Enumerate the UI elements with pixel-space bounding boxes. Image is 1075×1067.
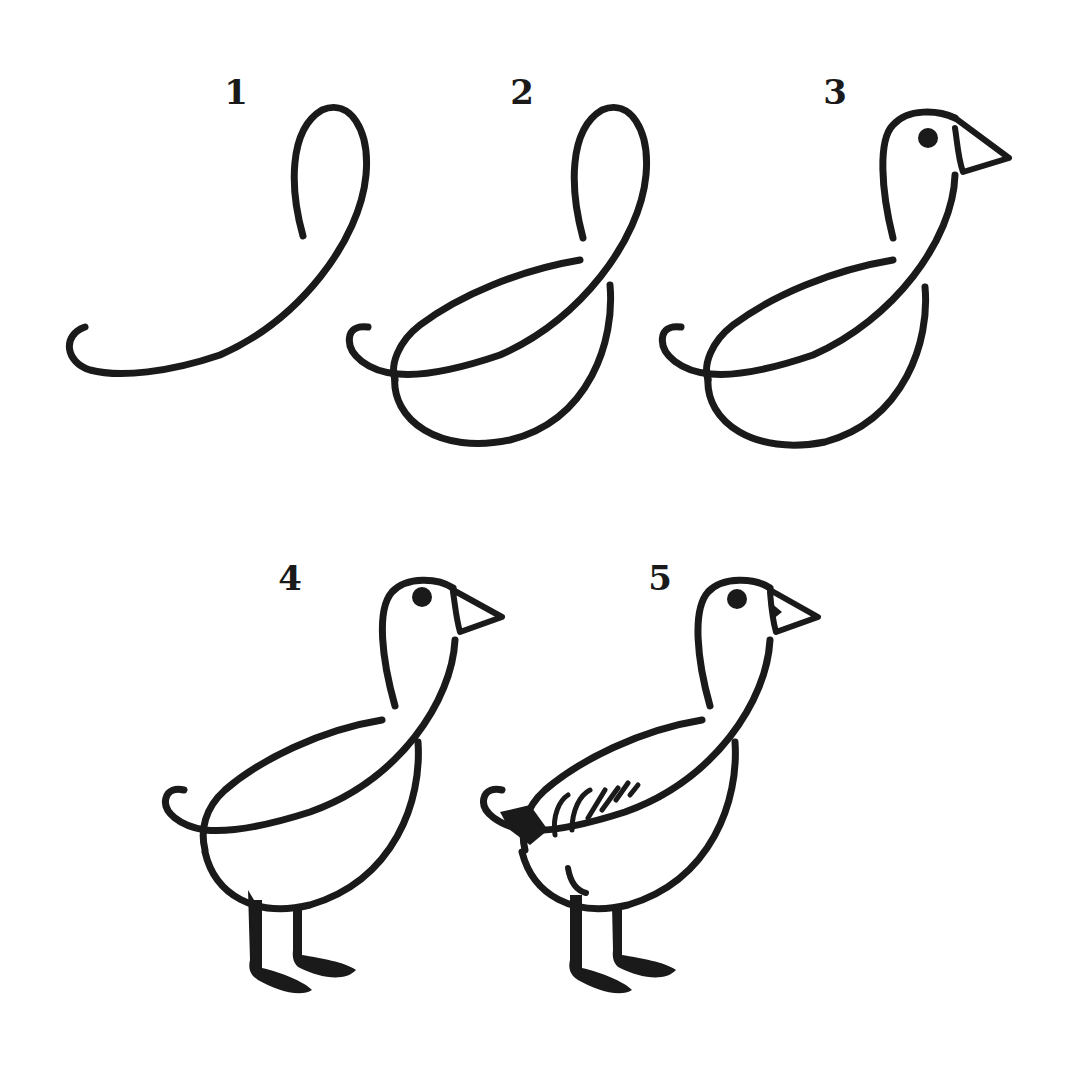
eye-icon bbox=[412, 587, 432, 607]
duck-step-1 bbox=[69, 107, 366, 373]
drawing-tutorial: 1 2 3 4 5 bbox=[0, 0, 1075, 1067]
duck-step-2 bbox=[349, 107, 646, 443]
duck-step-3 bbox=[662, 112, 1009, 445]
duck-drawings bbox=[0, 0, 1075, 1067]
duck-step-4 bbox=[165, 580, 502, 993]
duck-step-5 bbox=[483, 580, 818, 993]
eye-icon bbox=[727, 589, 747, 609]
eye-icon bbox=[918, 128, 938, 148]
